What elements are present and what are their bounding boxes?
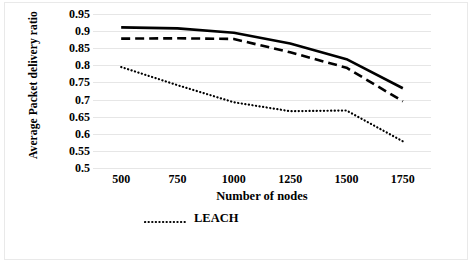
y-tick-label: 0.65 bbox=[46, 111, 90, 123]
x-tick-label: 1750 bbox=[373, 172, 433, 186]
series-canvas bbox=[93, 14, 431, 168]
y-axis-title: Average Packet delivery ratio bbox=[27, 0, 39, 175]
y-tick-label: 0.95 bbox=[46, 8, 90, 20]
y-tick-label: 0.75 bbox=[46, 76, 90, 88]
x-tick-label: 1000 bbox=[204, 172, 264, 186]
y-tick-label: 0.8 bbox=[46, 59, 90, 71]
x-tick-label: 500 bbox=[91, 172, 151, 186]
x-tick-label: 1250 bbox=[260, 172, 320, 186]
x-axis-tick-labels: 5007501000125015001750 bbox=[93, 172, 431, 188]
series-line-solid-series bbox=[121, 27, 403, 88]
x-axis-title: Number of nodes bbox=[93, 189, 431, 204]
legend-entry[interactable]: LEACH bbox=[144, 212, 238, 225]
legend-label: LEACH bbox=[194, 212, 238, 225]
series-line-dashed-series bbox=[121, 38, 403, 101]
y-tick-label: 0.5 bbox=[46, 162, 90, 174]
chart-figure: Average Packet delivery ratio 0.950.90.8… bbox=[0, 0, 474, 264]
y-axis-tick-labels: 0.950.90.850.80.750.70.650.60.550.5 bbox=[46, 6, 90, 178]
chart-legend: LEACH bbox=[93, 208, 431, 228]
y-tick-label: 0.55 bbox=[46, 145, 90, 157]
y-tick-label: 0.7 bbox=[46, 94, 90, 106]
gridline bbox=[93, 168, 431, 169]
x-tick-label: 750 bbox=[148, 172, 208, 186]
legend-swatch-dotted-icon bbox=[144, 213, 188, 223]
series-line-leach-series bbox=[121, 67, 403, 141]
plot-area bbox=[93, 14, 431, 168]
y-tick-label: 0.6 bbox=[46, 128, 90, 140]
y-tick-label: 0.9 bbox=[46, 25, 90, 37]
y-tick-label: 0.85 bbox=[46, 42, 90, 54]
x-tick-label: 1500 bbox=[317, 172, 377, 186]
